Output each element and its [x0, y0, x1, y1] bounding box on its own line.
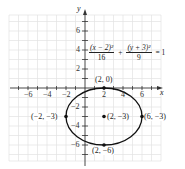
point-left: [64, 115, 68, 119]
equation-numerator-x: (x − 2)²: [89, 43, 114, 53]
point-label-center: (2, −3): [107, 113, 129, 121]
y-tick-label: −4: [71, 122, 80, 130]
y-axis-label: y: [77, 5, 81, 13]
point-label-bottom: (2, −6): [92, 147, 114, 155]
equation-numerator-y: (y + 3)²: [126, 43, 151, 53]
x-tick-label: 4: [121, 91, 125, 99]
axes: [10, 12, 160, 166]
equation-fraction-y: (y + 3)² 9: [126, 43, 151, 62]
equation-denominator-x: 16: [97, 53, 107, 62]
x-tick-label: −4: [43, 91, 52, 99]
equation-fraction-x: (x − 2)² 16: [89, 43, 114, 62]
point-label-top: (2, 0): [95, 76, 112, 84]
y-axis-arrow-icon: [83, 9, 87, 15]
y-tick-label: 2: [76, 65, 80, 73]
x-tick-label: −6: [24, 91, 33, 99]
ellipse-equation: (x − 2)² 16 + (y + 3)² 9 = 1: [88, 43, 168, 62]
point-center: [102, 115, 106, 119]
y-tick-label: 4: [76, 46, 80, 54]
x-tick-label: 2: [102, 91, 106, 99]
equation-plus: +: [118, 48, 122, 57]
point-label-right: (6, −3): [144, 113, 166, 121]
equation-rhs: = 1: [156, 48, 166, 57]
point-label-left: (−2, −3): [31, 113, 57, 121]
y-tick-label: −6: [71, 141, 80, 149]
x-tick-label: −2: [62, 91, 71, 99]
equation-denominator-y: 9: [136, 53, 142, 62]
ellipse-plot: [0, 0, 185, 169]
y-tick-label: 6: [76, 27, 80, 35]
x-tick-label: 6: [140, 91, 144, 99]
y-tick-label: −2: [71, 103, 80, 111]
x-axis-label: x: [160, 89, 164, 97]
